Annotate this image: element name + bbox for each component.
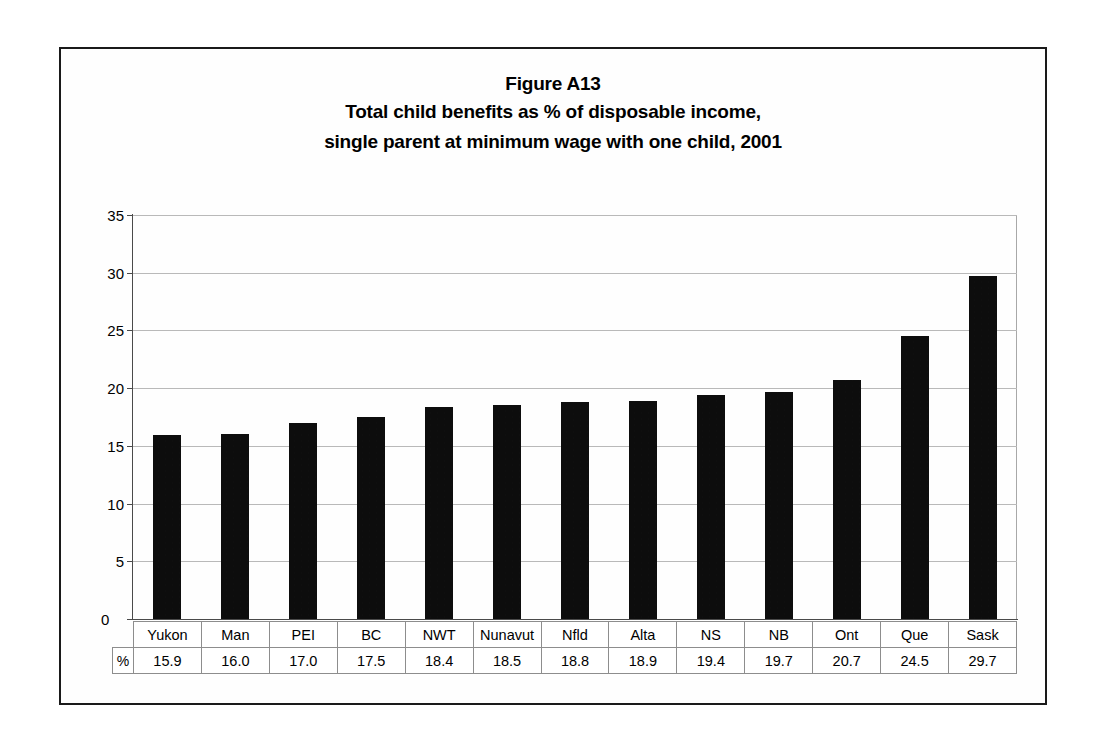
bar bbox=[833, 380, 861, 619]
bar bbox=[697, 395, 725, 619]
gridline bbox=[133, 388, 1017, 389]
figure-subtitle-line-2: single parent at minimum wage with one c… bbox=[61, 127, 1045, 157]
y-axis-zero-label: 0 bbox=[101, 611, 109, 628]
table-cell-category: BC bbox=[337, 622, 405, 648]
table-cell-category: Ont bbox=[813, 622, 881, 648]
page-title: Figure A13 bbox=[61, 70, 1045, 97]
bar bbox=[901, 336, 929, 619]
bar bbox=[629, 401, 657, 619]
table-cell-category: NB bbox=[745, 622, 813, 648]
gridline bbox=[133, 215, 1017, 216]
table-cell-category: Yukon bbox=[134, 622, 202, 648]
y-axis-line bbox=[132, 214, 133, 620]
data-table: YukonManPEIBCNWTNunavutNfldAltaNSNBOntQu… bbox=[133, 621, 1017, 674]
table-cell-value: 19.7 bbox=[745, 648, 813, 674]
table-cell-value: 19.4 bbox=[677, 648, 745, 674]
table-cell-category: NS bbox=[677, 622, 745, 648]
table-cell-category: Nunavut bbox=[473, 622, 541, 648]
table-cell-category: NWT bbox=[405, 622, 473, 648]
y-axis-tick-label: 30 bbox=[107, 264, 124, 281]
y-axis-tick-mark bbox=[127, 273, 133, 274]
table-cell-value: 18.5 bbox=[473, 648, 541, 674]
y-axis-tick-label: 35 bbox=[107, 207, 124, 224]
table-cell-value: 17.5 bbox=[337, 648, 405, 674]
bar bbox=[153, 435, 181, 619]
table-cell-category: Nfld bbox=[541, 622, 609, 648]
bar-chart: 05101520253035 bbox=[133, 215, 1017, 619]
table-cell-category: Alta bbox=[609, 622, 677, 648]
y-axis-tick-mark bbox=[127, 561, 133, 562]
table-row-categories: YukonManPEIBCNWTNunavutNfldAltaNSNBOntQu… bbox=[134, 622, 1017, 648]
table-cell-value: 18.8 bbox=[541, 648, 609, 674]
table-cell-value: 18.4 bbox=[405, 648, 473, 674]
figure-subtitle-line-1: Total child benefits as % of disposable … bbox=[61, 97, 1045, 127]
bar bbox=[425, 407, 453, 619]
y-axis-tick-label: 5 bbox=[116, 553, 124, 570]
table-cell-category: PEI bbox=[269, 622, 337, 648]
x-axis-line bbox=[132, 619, 1018, 620]
y-axis-tick-label: 10 bbox=[107, 495, 124, 512]
table-cell-value: 18.9 bbox=[609, 648, 677, 674]
bar bbox=[221, 434, 249, 619]
table-cell-value: 29.7 bbox=[949, 648, 1017, 674]
table-cell-category: Man bbox=[201, 622, 269, 648]
bar bbox=[969, 276, 997, 619]
table-cell-category: Que bbox=[881, 622, 949, 648]
bar bbox=[289, 423, 317, 619]
bar bbox=[765, 392, 793, 619]
y-axis-tick-mark bbox=[127, 330, 133, 331]
y-axis-tick-mark bbox=[127, 388, 133, 389]
y-axis-tick-mark bbox=[127, 619, 133, 620]
figure-frame: Figure A13 Total child benefits as % of … bbox=[59, 47, 1047, 705]
y-axis-tick-label: 25 bbox=[107, 322, 124, 339]
bar bbox=[357, 417, 385, 619]
y-axis-tick-label: 20 bbox=[107, 380, 124, 397]
table-cell-value: 15.9 bbox=[134, 648, 202, 674]
table-cell-value: 24.5 bbox=[881, 648, 949, 674]
figure-title-block: Figure A13 Total child benefits as % of … bbox=[61, 70, 1045, 157]
gridline bbox=[133, 330, 1017, 331]
table-cell-value: 20.7 bbox=[813, 648, 881, 674]
bar bbox=[561, 402, 589, 619]
table-cell-value: 17.0 bbox=[269, 648, 337, 674]
bar bbox=[493, 405, 521, 619]
unit-cell-percent: % bbox=[112, 647, 134, 674]
y-axis-tick-mark bbox=[127, 215, 133, 216]
y-axis-tick-mark bbox=[127, 504, 133, 505]
table-row-values: 15.916.017.017.518.418.518.818.919.419.7… bbox=[134, 648, 1017, 674]
gridline bbox=[133, 273, 1017, 274]
table-cell-category: Sask bbox=[949, 622, 1017, 648]
y-axis-tick-mark bbox=[127, 446, 133, 447]
table-cell-value: 16.0 bbox=[201, 648, 269, 674]
y-axis-tick-label: 15 bbox=[107, 437, 124, 454]
